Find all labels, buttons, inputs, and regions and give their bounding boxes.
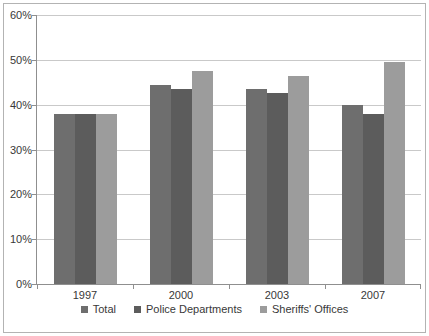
- x-axis-labels: 1997200020032007: [37, 289, 421, 303]
- legend-item-sheriffs-offices: Sheriffs' Offices: [260, 303, 348, 316]
- bar-group-1997: [37, 15, 133, 284]
- bar-sheriffs-offices-2000: [192, 71, 213, 284]
- x-axis-label: 1997: [37, 289, 133, 302]
- legend-marker-icon: [81, 306, 88, 313]
- y-axis-tick: [32, 150, 36, 151]
- y-axis-labels: 0%10%20%30%40%50%60%: [0, 0, 32, 336]
- y-axis-label: 50%: [0, 54, 32, 66]
- bar-total-1997: [54, 114, 75, 284]
- y-axis-label: 40%: [0, 99, 32, 111]
- legend-label: Sheriffs' Offices: [272, 303, 348, 316]
- y-axis-label: 10%: [0, 233, 32, 245]
- bar-group-2003: [229, 15, 325, 284]
- y-axis-tick: [32, 15, 36, 16]
- y-axis-tick: [32, 239, 36, 240]
- legend-item-total: Total: [81, 303, 116, 316]
- bar-group-2007: [325, 15, 421, 284]
- legend-label: Police Departments: [146, 303, 242, 316]
- y-axis-tick: [32, 60, 36, 61]
- y-axis-label: 30%: [0, 144, 32, 156]
- y-axis-label: 60%: [0, 9, 32, 21]
- legend-marker-icon: [260, 306, 267, 313]
- y-axis-tick: [32, 284, 36, 285]
- bar-police-departments-2007: [363, 114, 384, 284]
- bar-police-departments-2000: [171, 89, 192, 284]
- bar-police-departments-2003: [267, 93, 288, 284]
- bar-sheriffs-offices-1997: [96, 114, 117, 284]
- bar-sheriffs-offices-2003: [288, 76, 309, 284]
- legend: TotalPolice DepartmentsSheriffs' Offices: [0, 303, 429, 316]
- legend-marker-icon: [134, 306, 141, 313]
- y-axis-label: 0%: [0, 278, 32, 290]
- x-axis-label: 2003: [229, 289, 325, 302]
- plot-area: [36, 15, 421, 285]
- bar-total-2003: [246, 89, 267, 284]
- legend-label: Total: [93, 303, 116, 316]
- x-axis-label: 2007: [325, 289, 421, 302]
- legend-item-police-departments: Police Departments: [134, 303, 242, 316]
- bar-total-2000: [150, 85, 171, 285]
- y-axis-label: 20%: [0, 188, 32, 200]
- bar-sheriffs-offices-2007: [384, 62, 405, 284]
- bar-police-departments-1997: [75, 114, 96, 284]
- bar-total-2007: [342, 105, 363, 284]
- bar-group-2000: [133, 15, 229, 284]
- y-axis-tick: [32, 194, 36, 195]
- y-axis-tick: [32, 105, 36, 106]
- x-axis-label: 2000: [133, 289, 229, 302]
